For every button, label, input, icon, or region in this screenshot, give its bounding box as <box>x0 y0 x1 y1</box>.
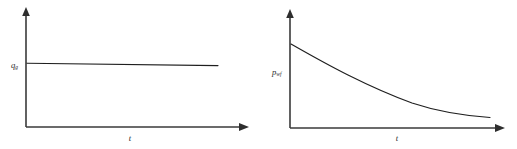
y-axis-label-right: pwf <box>271 67 283 78</box>
x-axis-arrowhead-right <box>495 124 505 132</box>
figure-root: qg t pwf t <box>0 0 517 149</box>
constant-rate-curve <box>27 63 218 65</box>
x-axis-label-left: t <box>129 133 132 143</box>
y-axis-arrowhead-left <box>22 7 30 16</box>
chart-svg-right: pwf t <box>260 0 517 149</box>
x-axis-arrowhead-left <box>239 123 249 131</box>
y-axis-label-sub-left: g <box>15 64 18 70</box>
chart-panel-left: qg t <box>0 0 260 149</box>
pressure-decline-curve <box>291 44 490 118</box>
chart-svg-left: qg t <box>0 0 260 149</box>
y-axis-label-left: qg <box>11 59 18 70</box>
chart-panel-right: pwf t <box>260 0 517 149</box>
x-axis-label-right: t <box>396 133 399 143</box>
y-axis-arrowhead-right <box>286 9 294 18</box>
y-axis-label-sub-right: wf <box>276 72 283 78</box>
